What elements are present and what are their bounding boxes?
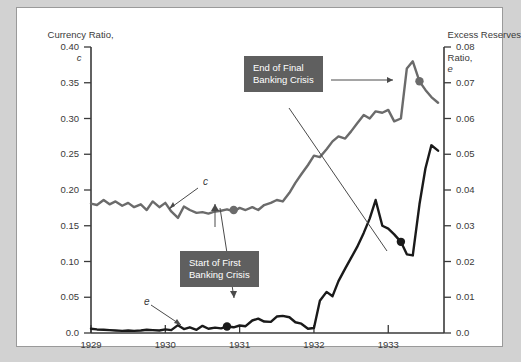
right-tick-label: 0.07 — [456, 77, 488, 88]
right-tick-label: 0.04 — [456, 184, 488, 195]
left-tick-label: 0.20 — [49, 184, 79, 195]
x-tick-label: 1932 — [294, 339, 334, 350]
left-tick-label: 0.40 — [49, 41, 79, 52]
right-tick-label: 0.05 — [456, 148, 488, 159]
data-point-markers — [223, 77, 424, 331]
figure-panel: Currency Ratio, c Excess Reserves Ratio,… — [16, 7, 503, 347]
data-marker — [223, 322, 231, 330]
left-tick-label: 0.05 — [49, 291, 79, 302]
left-tick-label: 0.25 — [49, 148, 79, 159]
data-marker — [397, 238, 405, 246]
annotation-start-of-first-banking-crisis: Start of First Banking Crisis — [180, 251, 259, 287]
annotation-end-of-final-banking-crisis: End of Final Banking Crisis — [244, 56, 323, 92]
data-marker — [415, 77, 423, 85]
left-tick-label: 0.15 — [49, 220, 79, 231]
x-tick-label: 1929 — [71, 339, 111, 350]
right-tick-label: 0.01 — [456, 291, 488, 302]
left-tick-label: 0.35 — [49, 77, 79, 88]
x-tick-label: 1930 — [145, 339, 185, 350]
x-tick-label: 1931 — [220, 339, 260, 350]
left-tick-label: 0.0 — [49, 327, 79, 338]
x-tick-label: 1933 — [368, 339, 408, 350]
left-axis-ticks — [84, 47, 91, 333]
right-tick-label: 0.03 — [456, 220, 488, 231]
right-tick-label: 0.02 — [456, 256, 488, 267]
left-tick-label: 0.30 — [49, 113, 79, 124]
right-axis-ticks — [444, 47, 451, 333]
data-marker — [229, 206, 237, 214]
right-tick-label: 0.0 — [456, 327, 488, 338]
series-label-currency: c — [203, 176, 208, 187]
right-tick-label: 0.06 — [456, 113, 488, 124]
right-tick-label: 0.08 — [456, 41, 488, 52]
left-tick-label: 0.10 — [49, 256, 79, 267]
series-label-excess: e — [144, 296, 150, 307]
